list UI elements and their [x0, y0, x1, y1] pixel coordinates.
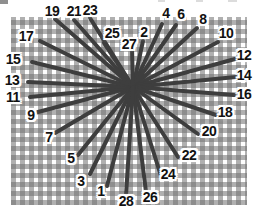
stitch-lines-svg	[0, 0, 255, 216]
stitch-line-27	[132, 48, 133, 87]
stitch-diagram: 1234567891011121314151617181920212223242…	[0, 0, 255, 216]
stitch-line-20	[133, 87, 198, 134]
